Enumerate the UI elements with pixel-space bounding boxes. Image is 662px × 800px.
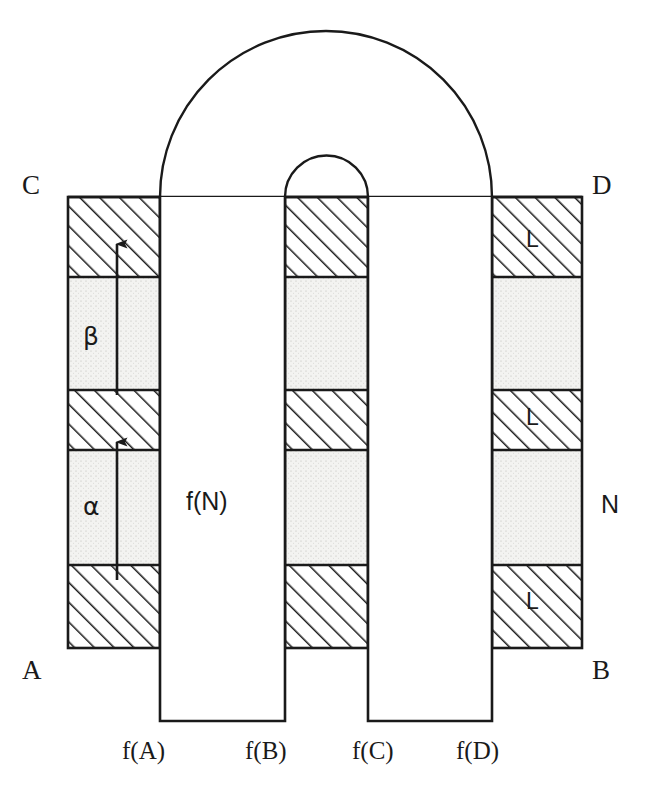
tongue-left: [160, 197, 285, 721]
inner-arc: [285, 156, 368, 198]
label-fn: f(N): [186, 489, 228, 514]
band-mark-l-middle: L: [526, 406, 539, 429]
bottom-label-fc: f(C): [352, 738, 394, 763]
label-beta: β: [83, 324, 99, 349]
label-alpha: α: [83, 494, 99, 519]
corner-label-d: D: [592, 172, 612, 199]
band-mark-l-bottom: L: [526, 590, 539, 613]
tongue-right: [368, 197, 492, 721]
diagram-svg: [0, 0, 662, 800]
outer-arc: [160, 31, 492, 197]
corner-label-c: C: [22, 172, 40, 199]
band-mark-l-top: L: [526, 228, 539, 251]
middle-column-bands: [285, 197, 368, 648]
bottom-label-fb: f(B): [245, 738, 287, 763]
bottom-label-fa: f(A): [122, 738, 165, 763]
corner-label-b: B: [592, 657, 610, 684]
label-n: N: [601, 492, 619, 517]
left-column-bands: [68, 197, 160, 648]
diagram-canvas: C D A B N β α f(N) L L L f(A) f(B) f(C) …: [0, 0, 662, 800]
corner-label-a: A: [22, 657, 42, 684]
bottom-label-fd: f(D): [456, 738, 499, 763]
